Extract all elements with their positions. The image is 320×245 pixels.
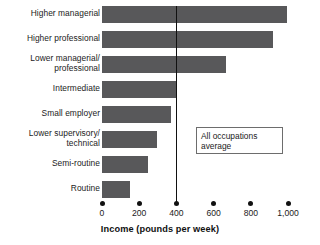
bar — [102, 131, 157, 148]
bar — [102, 181, 130, 198]
x-tick-dot — [174, 201, 179, 206]
x-tick-label: 200 — [119, 208, 159, 218]
x-tick-label: 0 — [82, 208, 122, 218]
category-label: Intermediate — [53, 84, 100, 94]
bar — [102, 56, 226, 73]
horizontal-bar-chart: Higher managerial Higher professional Lo… — [0, 0, 320, 245]
x-tick-label: 1,000 — [268, 208, 308, 218]
x-tick-label: 600 — [194, 208, 234, 218]
category-label: Higher managerial — [31, 9, 100, 19]
average-annotation-box: All occupations average — [196, 127, 283, 154]
bar — [102, 106, 171, 123]
bar — [102, 6, 287, 23]
x-tick-label: 800 — [231, 208, 271, 218]
category-label: Lower supervisory/ technical — [29, 129, 100, 148]
bar — [102, 31, 273, 48]
x-axis-title: Income (pounds per week) — [0, 224, 320, 234]
x-tick-dot — [248, 201, 253, 206]
annotation-line-1: All occupations — [201, 131, 282, 141]
x-tick-dot — [286, 201, 291, 206]
x-tick-dot — [100, 201, 105, 206]
x-tick-label: 400 — [156, 208, 196, 218]
category-label: Lower managerial/ professional — [30, 54, 100, 73]
category-label: Semi-routine — [52, 159, 100, 169]
annotation-line-2: average — [201, 141, 282, 151]
category-label: Small employer — [42, 109, 100, 119]
average-reference-line — [176, 6, 178, 204]
bar — [102, 156, 148, 173]
x-tick-dot — [137, 201, 142, 206]
x-tick-dot — [211, 201, 216, 206]
category-label: Higher professional — [27, 34, 100, 44]
bar — [102, 81, 176, 98]
category-label: Routine — [71, 184, 100, 194]
